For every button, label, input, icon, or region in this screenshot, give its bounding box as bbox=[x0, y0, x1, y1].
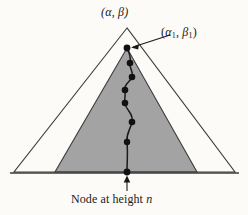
bottom-caption-text: Node at height bbox=[71, 192, 146, 206]
path-node bbox=[127, 60, 134, 67]
path-node bbox=[122, 100, 129, 107]
path-node bbox=[124, 139, 130, 145]
subtree-beta-subscript: 1 bbox=[189, 31, 193, 40]
subtree-beta-symbol: β bbox=[182, 25, 188, 39]
figure-container: (α, β) (α1, β1) Node at height n bbox=[0, 0, 248, 215]
path-node bbox=[129, 74, 136, 81]
bottom-caption-height-symbol: n bbox=[146, 192, 152, 206]
subtree-apex-label: (α1, β1) bbox=[161, 26, 197, 38]
path-node bbox=[122, 87, 129, 94]
subtree-paren-close: ) bbox=[193, 25, 197, 39]
apex-label: (α, β) bbox=[101, 6, 128, 18]
arrow-to-bottom-node-head bbox=[124, 176, 131, 183]
bottom-caption: Node at height n bbox=[71, 193, 152, 205]
path-node bbox=[129, 119, 136, 126]
arrow-to-subtree-apex-head bbox=[131, 44, 139, 49]
apex-label-text: (α, β) bbox=[101, 5, 128, 19]
subtree-alpha-subscript: 1 bbox=[172, 31, 176, 40]
path-node-at-height-n bbox=[124, 169, 131, 176]
path-node bbox=[124, 45, 131, 52]
inner-shaded-triangle bbox=[55, 48, 197, 172]
subtree-alpha-symbol: α bbox=[165, 25, 172, 39]
triangle-diagram-canvas bbox=[0, 0, 248, 215]
